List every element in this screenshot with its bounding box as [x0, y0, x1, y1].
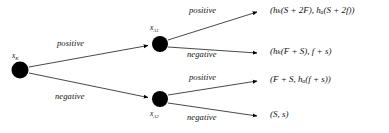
- edge-label-lower-positive: positive: [189, 73, 216, 82]
- edge-root-upper: [29, 46, 148, 68]
- node-label-root: xK: [12, 52, 19, 60]
- edge-label-lower-negative: negative: [187, 113, 217, 122]
- edge-upper-outcome1: [168, 12, 257, 40]
- outcome-label-3: (F + S, hₐ(f + s)): [270, 75, 331, 84]
- edge-label-upper-positive: positive: [189, 6, 216, 15]
- decision-tree-diagram: xK xA1 xA2 positive negative positive ne…: [0, 0, 389, 133]
- node-lower: [152, 91, 168, 107]
- outcome-label-4: (S, s): [270, 110, 289, 119]
- node-root: [12, 62, 29, 79]
- node-label-upper: xA1: [150, 24, 159, 32]
- node-upper: [152, 36, 168, 52]
- edge-label-root-positive: positive: [57, 39, 84, 48]
- edge-label-upper-negative: negative: [187, 50, 217, 59]
- edge-label-root-negative: negative: [55, 92, 85, 101]
- outcome-label-1: (hₖ(S + 2F), hₐ(S + 2f)): [270, 6, 355, 15]
- node-label-lower: xA2: [150, 110, 159, 118]
- edge-lower-outcome3: [168, 81, 257, 95]
- outcome-label-2: (hₖ(F + S), f + s): [270, 47, 331, 56]
- edge-root-lower: [29, 73, 148, 98]
